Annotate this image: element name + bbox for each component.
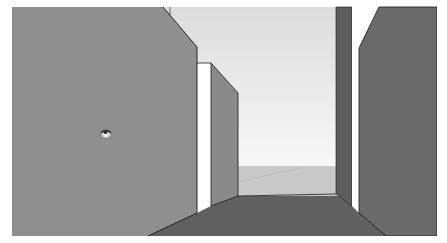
right-pillar (336, 7, 352, 206)
scene-canvas[interactable] (0, 0, 447, 243)
3d-viewport[interactable] (0, 0, 447, 243)
left-wall (12, 7, 197, 236)
look-around-eye-icon (101, 130, 112, 139)
right-wall (359, 7, 437, 236)
